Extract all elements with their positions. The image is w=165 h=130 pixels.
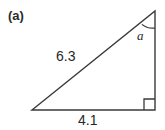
base-length-label: 4.1 — [78, 113, 97, 127]
figure-container: (a) 6.3 4.1 a — [0, 0, 165, 130]
triangle-outline — [32, 11, 155, 110]
triangle-diagram — [0, 0, 165, 130]
right-angle-marker-icon — [144, 99, 155, 110]
hypotenuse-length-label: 6.3 — [56, 49, 75, 63]
part-label: (a) — [8, 9, 24, 22]
angle-label: a — [137, 29, 144, 42]
